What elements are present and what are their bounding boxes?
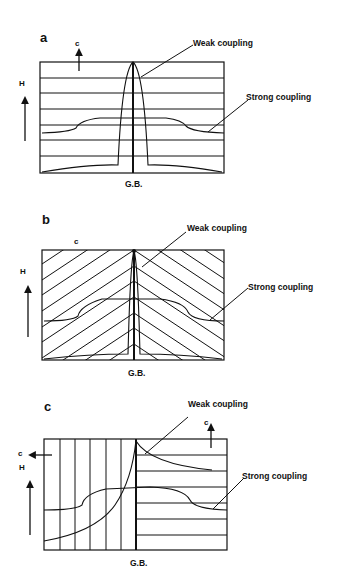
c-axis-label: c	[75, 39, 80, 48]
grain-boundary-figure: a c H Weak coupling Strong c	[0, 0, 338, 567]
c-axis-label-left: c	[18, 449, 23, 458]
grain-boundary-label: G.B.	[125, 179, 142, 189]
grain-boundary-label: G.B.	[128, 368, 145, 378]
strong-leader-line	[213, 478, 244, 509]
weak-coupling-label: Weak coupling	[188, 399, 248, 409]
panel-a: a c H Weak coupling Strong c	[19, 30, 311, 189]
strong-leader-line	[208, 100, 248, 132]
field-label: H	[20, 267, 26, 276]
weak-coupling-label: Weak coupling	[187, 223, 247, 233]
grain-boundary-label: G.B.	[130, 558, 147, 567]
field-label: H	[19, 463, 25, 472]
panel-a-label: a	[40, 30, 48, 45]
junction-point	[132, 249, 136, 253]
flux-lines-right	[136, 455, 227, 535]
strong-coupling-label: Strong coupling	[246, 92, 311, 102]
strong-coupling-label: Strong coupling	[248, 282, 313, 292]
field-label: H	[19, 79, 25, 88]
panel-b-label: b	[42, 212, 50, 227]
strong-coupling-label: Strong coupling	[242, 471, 307, 481]
weak-leader-line	[145, 417, 188, 454]
panel-c: c c H c	[18, 399, 307, 567]
panel-c-label: c	[44, 399, 51, 414]
panel-b: b c H	[20, 187, 313, 405]
weak-coupling-label: Weak coupling	[193, 38, 253, 48]
c-axis-label-right: c	[204, 418, 209, 427]
weak-leader-line	[141, 45, 193, 77]
c-axis-label: c	[74, 237, 79, 246]
